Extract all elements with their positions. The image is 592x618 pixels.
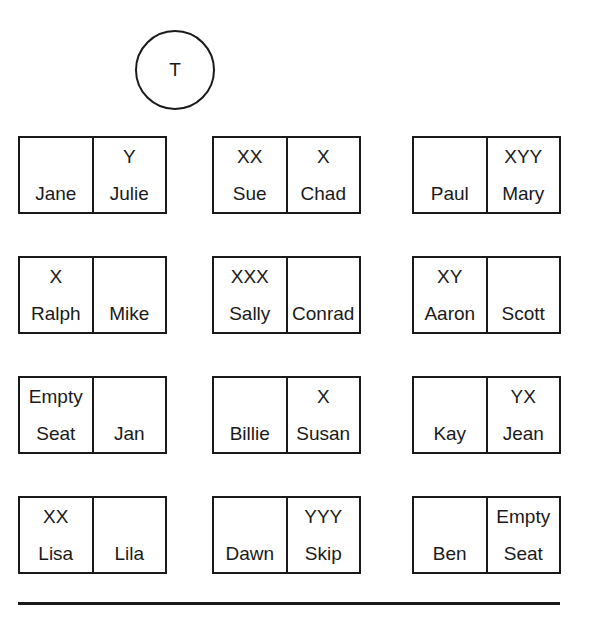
seat-mark: Empty bbox=[488, 506, 560, 528]
seat-mark: XX bbox=[214, 146, 286, 168]
seat: Ben bbox=[414, 498, 486, 572]
seat: XXXSally bbox=[214, 258, 286, 332]
desk: BenEmptySeat bbox=[412, 496, 561, 574]
student-name: Mike bbox=[94, 303, 166, 325]
student-name: Ralph bbox=[20, 303, 92, 325]
seat: XXSue bbox=[214, 138, 286, 212]
desk: JaneYJulie bbox=[18, 136, 167, 214]
desk: EmptySeatJan bbox=[18, 376, 167, 454]
student-name: Sally bbox=[214, 303, 286, 325]
seat: XXLisa bbox=[20, 498, 92, 572]
seat: Lila bbox=[92, 498, 166, 572]
seat: EmptySeat bbox=[20, 378, 92, 452]
seat-mark: XX bbox=[20, 506, 92, 528]
student-name: Seat bbox=[488, 543, 560, 565]
seat: EmptySeat bbox=[486, 498, 560, 572]
seat-mark: X bbox=[288, 386, 360, 408]
seat: Scott bbox=[486, 258, 560, 332]
front-wall-line bbox=[18, 602, 560, 605]
seat: YXJean bbox=[486, 378, 560, 452]
student-name: Mary bbox=[488, 183, 560, 205]
seat: XChad bbox=[286, 138, 360, 212]
desk: XYAaronScott bbox=[412, 256, 561, 334]
student-name: Aaron bbox=[414, 303, 486, 325]
seat: Mike bbox=[92, 258, 166, 332]
desk: XRalphMike bbox=[18, 256, 167, 334]
seat: XSusan bbox=[286, 378, 360, 452]
student-name: Kay bbox=[414, 423, 486, 445]
seat-mark: Y bbox=[94, 146, 166, 168]
seat: YJulie bbox=[92, 138, 166, 212]
seat: Jan bbox=[92, 378, 166, 452]
student-name: Billie bbox=[214, 423, 286, 445]
student-name: Susan bbox=[288, 423, 360, 445]
student-name: Chad bbox=[288, 183, 360, 205]
seat: YYYSkip bbox=[286, 498, 360, 572]
student-name: Scott bbox=[488, 303, 560, 325]
seat-mark: XY bbox=[414, 266, 486, 288]
student-name: Julie bbox=[94, 183, 166, 205]
seat: XYAaron bbox=[414, 258, 486, 332]
student-name: Jane bbox=[20, 183, 92, 205]
seat: Billie bbox=[214, 378, 286, 452]
student-name: Conrad bbox=[288, 303, 360, 325]
seat-mark: XYY bbox=[488, 146, 560, 168]
seat-mark: Empty bbox=[20, 386, 92, 408]
desk: PaulXYYMary bbox=[412, 136, 561, 214]
student-name: Dawn bbox=[214, 543, 286, 565]
seat-mark: XXX bbox=[214, 266, 286, 288]
student-name: Seat bbox=[20, 423, 92, 445]
seat-mark: X bbox=[20, 266, 92, 288]
seat: Conrad bbox=[286, 258, 360, 332]
teacher-label: T bbox=[169, 59, 181, 81]
seat-mark: X bbox=[288, 146, 360, 168]
student-name: Lisa bbox=[20, 543, 92, 565]
student-name: Lila bbox=[94, 543, 166, 565]
seat: XRalph bbox=[20, 258, 92, 332]
seat: Dawn bbox=[214, 498, 286, 572]
desk: KayYXJean bbox=[412, 376, 561, 454]
desk: XXLisaLila bbox=[18, 496, 167, 574]
student-name: Jan bbox=[94, 423, 166, 445]
seat: XYYMary bbox=[486, 138, 560, 212]
student-name: Jean bbox=[488, 423, 560, 445]
student-name: Ben bbox=[414, 543, 486, 565]
teacher-circle: T bbox=[135, 30, 215, 110]
seat: Kay bbox=[414, 378, 486, 452]
desk: XXSueXChad bbox=[212, 136, 361, 214]
seat-mark: YYY bbox=[288, 506, 360, 528]
desk: XXXSallyConrad bbox=[212, 256, 361, 334]
seat-mark: YX bbox=[488, 386, 560, 408]
student-name: Paul bbox=[414, 183, 486, 205]
student-name: Skip bbox=[288, 543, 360, 565]
seat: Paul bbox=[414, 138, 486, 212]
student-name: Sue bbox=[214, 183, 286, 205]
desk: DawnYYYSkip bbox=[212, 496, 361, 574]
desk: BillieXSusan bbox=[212, 376, 361, 454]
seat: Jane bbox=[20, 138, 92, 212]
